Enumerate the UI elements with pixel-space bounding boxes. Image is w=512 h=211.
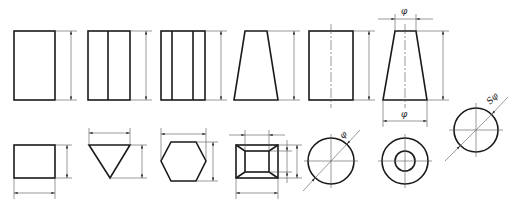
hexagon-top-view [161,128,218,181]
diameter-label: φ [337,128,349,140]
three-face-prism-front-view [161,31,227,100]
sphere-diameter-label: Sφ [484,90,500,106]
rectangle-top-view [14,145,72,199]
bottom-diameter-label: φ [401,109,408,119]
two-face-prism-front-view [88,31,152,100]
triangle-top-view [89,128,147,178]
top-diameter-label: φ [401,6,408,16]
cone-frustum-front-view: φ φ [378,6,449,127]
engineering-drawing: φ φ Sφ [0,0,512,211]
sphere-view: Sφ [445,90,508,161]
pyramid-frustum-top-view [229,130,302,199]
diameter-dimension [347,130,360,144]
hollow-cone-top-view [378,134,432,188]
cylinder-top-view: φ [303,128,360,191]
cylinder-front-view [309,24,375,108]
square-prism-front-view [14,31,77,100]
frustum-front-view [234,31,300,100]
